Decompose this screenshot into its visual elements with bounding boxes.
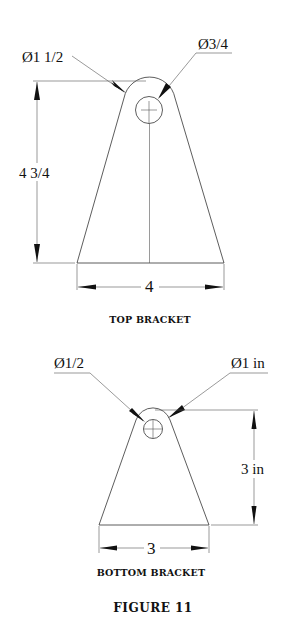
top-bracket-caption: TOP BRACKET [109,314,190,325]
bottom-hole-arrow-fill [129,408,145,422]
top-outer-diameter-arrow [112,80,126,93]
bottom-width-arrow-left [100,546,117,551]
bottom-width-arrow-right [191,546,208,551]
figure-title: FIGURE 11 [113,601,192,615]
top-width-label: 4 [145,277,154,296]
bottom-bracket-caption: BOTTOM BRACKET [97,567,206,578]
bottom-height-arrow-down [252,506,257,524]
top-height-arrow-down [34,244,40,262]
top-bracket: Ø1 1/2 Ø3/4 4 3/4 4 TOP BRACKET [14,36,232,325]
bottom-width-label: 3 [147,539,156,558]
bottom-outer-diameter-label: Ø1 in [231,355,265,371]
top-height-label: 4 3/4 [19,165,50,181]
bottom-hole-diameter-label: Ø1/2 [54,355,84,371]
top-outer-diameter-label: Ø1 1/2 [22,49,63,65]
top-height-arrow-up [34,82,40,100]
top-hole-diameter-label: Ø3/4 [198,36,229,52]
bottom-height-arrow-up [252,411,257,429]
top-bracket-outline [77,77,224,263]
bottom-bracket-outline [99,408,209,525]
top-width-arrow-left [78,285,96,290]
bottom-bracket: Ø1/2 Ø1 in 3 in 3 BOTTOM BRACKET [54,355,272,578]
bottom-outer-arrow [168,405,185,418]
top-width-arrow-right [205,285,223,290]
technical-drawing: Ø1 1/2 Ø3/4 4 3/4 4 TOP BRACKET [0,0,281,618]
bottom-height-label: 3 in [241,461,264,477]
